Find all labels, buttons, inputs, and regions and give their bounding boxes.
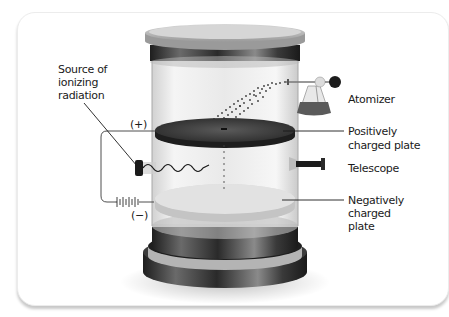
lid — [145, 24, 305, 68]
telescope — [289, 157, 325, 171]
label-minus: (−) — [131, 209, 148, 222]
label-atomizer: Atomizer — [348, 93, 396, 106]
negative-plate — [155, 184, 295, 222]
label-negative-plate-line-2: charged — [348, 207, 391, 220]
label-plus: (+) — [130, 118, 147, 131]
label-telescope: Telescope — [347, 162, 400, 175]
label-source-line-2: ionizing — [58, 76, 98, 89]
positive-plate — [155, 118, 295, 148]
label-source-line-3: radiation — [58, 89, 105, 102]
label-positive-plate-line-2: charged plate — [348, 139, 421, 152]
battery-icon — [115, 197, 138, 207]
label-negative-plate-line-3: plate — [348, 220, 375, 233]
label-negative-plate-line-1: Negatively — [348, 194, 405, 207]
label-positive-plate-line-1: Positively — [348, 125, 398, 138]
label-source-line-1: Source of — [58, 63, 109, 76]
